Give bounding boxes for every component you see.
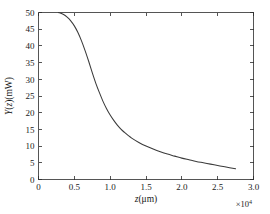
x-tick-label: 0 <box>36 182 41 192</box>
x-axis-exponent: ×104 <box>236 199 252 209</box>
y-tick-label: 35 <box>26 58 36 68</box>
x-tick-label: 1.5 <box>140 182 152 192</box>
x-tick-marks <box>39 13 254 180</box>
y-tick-label: 25 <box>26 91 36 101</box>
y-tick-marks <box>39 13 254 180</box>
y-tick-label: 10 <box>26 141 36 151</box>
y-tick-label: 20 <box>26 108 36 118</box>
data-series-group <box>59 13 236 169</box>
data-curve-Y-of-z <box>59 13 236 169</box>
y-tick-label: 0 <box>30 175 35 185</box>
x-tick-label: 2.0 <box>176 182 188 192</box>
x-tick-label: 3.0 <box>248 182 260 192</box>
y-axis-title: Y(z)(mW) <box>4 77 15 115</box>
y-tick-label: 15 <box>26 125 36 135</box>
plot-frame <box>39 13 254 180</box>
y-tick-label: 45 <box>26 24 36 34</box>
x-tick-label: 1.0 <box>105 182 117 192</box>
axes-frame <box>39 13 254 180</box>
y-tick-label: 5 <box>30 158 35 168</box>
y-tick-label: 50 <box>26 8 36 18</box>
line-chart: 05101520253035404550 00.51.01.52.02.53.0… <box>0 0 270 214</box>
y-tick-labels: 05101520253035404550 <box>26 8 36 185</box>
x-tick-label: 2.5 <box>212 182 224 192</box>
figure-container: 05101520253035404550 00.51.01.52.02.53.0… <box>0 0 270 214</box>
x-axis-title: z(μm) <box>134 194 158 205</box>
y-tick-label: 30 <box>26 75 36 85</box>
x-tick-label: 0.5 <box>69 182 81 192</box>
x-tick-labels: 00.51.01.52.02.53.0 <box>36 182 259 192</box>
y-tick-label: 40 <box>26 41 36 51</box>
